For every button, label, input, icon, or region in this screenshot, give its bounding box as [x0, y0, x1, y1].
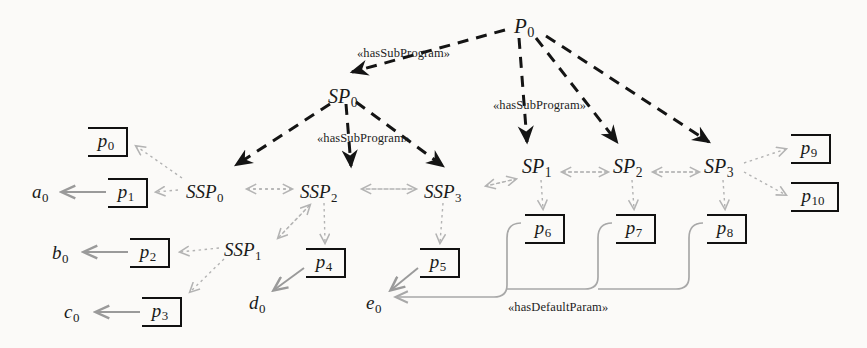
value-b0[interactable]: b0 — [52, 243, 68, 266]
param-box-p1[interactable]: p1 — [108, 178, 148, 208]
value-c0[interactable]: c0 — [64, 302, 79, 325]
param-p1-base: p — [118, 181, 128, 202]
param-p0-sub: 0 — [108, 138, 114, 153]
edge-label-hasSubProgram-mid: «hasSubProgram» — [317, 131, 410, 146]
param-p7-sub: 7 — [636, 225, 642, 240]
param-box-p4[interactable]: p4 — [306, 248, 346, 278]
param-p5-sub: 5 — [440, 259, 446, 274]
param-box-p5[interactable]: p5 — [420, 248, 460, 278]
edge-hasParam-SSP1-p2 — [180, 248, 219, 252]
node-SSP3-base: SSP — [424, 181, 455, 202]
edge-hasParam-SP3-p9 — [744, 149, 786, 163]
edge-sibling-SSP1-SSP2 — [278, 205, 310, 238]
edge-sibling-SSP3-SP1 — [486, 179, 516, 186]
node-SSP0-sub: 0 — [217, 190, 223, 205]
param-p2-sub: 2 — [150, 249, 156, 264]
node-SP2-base: SP — [613, 155, 635, 177]
param-p5-base: p — [430, 251, 440, 272]
param-box-p6[interactable]: p6 — [525, 214, 565, 244]
value-d0[interactable]: d0 — [249, 293, 265, 316]
edge-hasParam-SP3-p10 — [744, 172, 786, 195]
node-SSP0-base: SSP — [186, 181, 217, 202]
node-P0-base: P — [514, 14, 527, 38]
param-p4-base: p — [316, 251, 326, 272]
value-e0[interactable]: e0 — [366, 293, 381, 316]
param-p9-sub: 9 — [811, 145, 817, 160]
node-SP0-sub: 0 — [351, 95, 358, 110]
edge-hasParam-SP2-p7 — [632, 180, 634, 209]
node-SP0-base: SP — [328, 85, 350, 107]
edge-hasSubProgram-P0-SP2 — [536, 38, 617, 142]
param-p3-sub: 3 — [162, 308, 168, 323]
param-box-p7[interactable]: p7 — [616, 214, 656, 244]
param-p7-base: p — [626, 217, 636, 238]
param-box-p8[interactable]: p8 — [707, 214, 747, 244]
value-b0-base: b — [52, 242, 62, 263]
value-e0-sub: 0 — [375, 301, 381, 316]
param-p8-base: p — [717, 217, 727, 238]
param-p4-sub: 4 — [326, 259, 332, 274]
edge-hasParam-SSP0-p1 — [156, 190, 178, 192]
node-SP1-sub: 1 — [545, 165, 552, 180]
edge-hasParam-SSP2-p4 — [324, 203, 325, 243]
node-SSP2-sub: 2 — [331, 190, 337, 205]
param-box-p3[interactable]: p3 — [142, 297, 182, 327]
param-p10-sub: 10 — [812, 193, 825, 208]
node-SSP1[interactable]: SSP1 — [224, 240, 262, 263]
param-p6-sub: 6 — [545, 225, 551, 240]
param-p9-base: p — [801, 137, 811, 158]
value-d0-sub: 0 — [259, 301, 265, 316]
edge-hasSubProgram-P0-SP1 — [519, 38, 527, 142]
diagram-canvas: P0 SP0 SP1 SP2 SP3 SSP0 SSP1 SSP2 SSP3 p… — [0, 0, 867, 348]
edge-hasSubProgram-SP0-SSP0 — [236, 104, 330, 165]
node-SSP2[interactable]: SSP2 — [300, 182, 338, 205]
param-p2-base: p — [140, 241, 150, 262]
param-p10-base: p — [802, 185, 812, 206]
edge-hasParam-SP1-p6 — [541, 180, 543, 209]
node-SP3-base: SP — [704, 155, 726, 177]
value-d0-base: d — [249, 292, 259, 313]
param-box-p10[interactable]: p10 — [791, 182, 839, 212]
node-SSP3-sub: 3 — [455, 190, 461, 205]
param-p0-base: p — [98, 130, 108, 151]
node-SP3-sub: 3 — [727, 165, 734, 180]
value-b0-sub: 0 — [62, 251, 68, 266]
value-e0-base: e — [366, 292, 374, 313]
edge-hasSubProgram-P0-SP3 — [546, 36, 709, 142]
node-SP3[interactable]: SP3 — [704, 156, 734, 179]
node-SP2[interactable]: SP2 — [613, 156, 643, 179]
node-SP2-sub: 2 — [636, 165, 643, 180]
node-SSP2-base: SSP — [300, 181, 331, 202]
edge-hasValue-p5-e0 — [391, 268, 418, 290]
param-p6-base: p — [535, 217, 545, 238]
value-a0-base: a — [32, 181, 42, 202]
edge-label-hasSubProgram-left: «hasSubProgram» — [357, 46, 450, 61]
node-P0-sub: 0 — [527, 24, 534, 40]
param-box-p9[interactable]: p9 — [791, 134, 831, 164]
param-box-p0[interactable]: p0 — [88, 127, 128, 157]
param-p1-sub: 1 — [128, 189, 134, 204]
node-SSP3[interactable]: SSP3 — [424, 182, 462, 205]
edge-hasParam-SSP3-p5 — [440, 203, 443, 243]
value-c0-base: c — [64, 301, 72, 322]
param-box-p2[interactable]: p2 — [130, 238, 170, 268]
edge-label-hasDefaultParam: «hasDefaultParam» — [508, 300, 608, 315]
node-SSP1-base: SSP — [224, 239, 255, 260]
value-c0-sub: 0 — [73, 310, 79, 325]
edge-hasValue-p4-d0 — [274, 268, 304, 290]
param-p8-sub: 8 — [727, 225, 733, 240]
node-SSP1-sub: 1 — [255, 248, 261, 263]
edge-hasParam-SSP1-p3 — [190, 259, 224, 292]
node-SSP0[interactable]: SSP0 — [186, 182, 224, 205]
edge-label-hasSubProgram-right: «hasSubProgram» — [493, 98, 586, 113]
node-SP1[interactable]: SP1 — [522, 156, 552, 179]
value-a0-sub: 0 — [42, 190, 48, 205]
node-P0[interactable]: P0 — [514, 16, 534, 39]
edge-hasParam-SP3-p8 — [723, 180, 725, 209]
edge-hasParam-SSP0-p0 — [136, 146, 182, 178]
value-a0[interactable]: a0 — [32, 182, 48, 205]
param-p3-base: p — [152, 300, 162, 321]
node-SP1-base: SP — [522, 155, 544, 177]
node-SP0[interactable]: SP0 — [328, 86, 358, 109]
